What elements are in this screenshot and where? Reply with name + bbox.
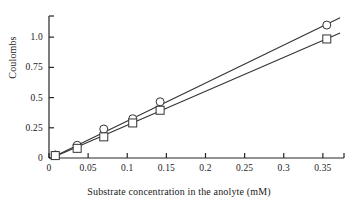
data-point-circle xyxy=(323,21,331,29)
data-point-square xyxy=(100,133,108,141)
data-series-group xyxy=(51,18,340,160)
x-tick-label: 0.2 xyxy=(199,163,211,173)
y-tick-label: 0.25 xyxy=(4,123,43,133)
data-point-square xyxy=(129,119,137,127)
data-point-square xyxy=(51,152,59,160)
x-tick-label: 0.35 xyxy=(314,163,331,173)
y-tick-label: 0 xyxy=(4,153,43,163)
data-point-square xyxy=(323,35,331,43)
fit-line xyxy=(52,18,340,158)
x-tick-label: 0.25 xyxy=(236,163,253,173)
y-axis-title: Coulombs xyxy=(7,18,18,98)
scatter-plot-canvas xyxy=(0,0,358,206)
x-tick-label: 0.3 xyxy=(277,163,289,173)
x-tick-label: 0.15 xyxy=(158,163,175,173)
data-point-square xyxy=(156,106,164,114)
data-point-circle xyxy=(100,125,108,133)
data-point-circle xyxy=(156,98,164,106)
x-tick-label: 0.1 xyxy=(121,163,133,173)
x-tick-label: 0.05 xyxy=(79,163,96,173)
x-tick-label: 0 xyxy=(47,163,52,173)
data-point-square xyxy=(73,144,81,152)
chart-figure: 00.050.10.150.20.250.30.35 00.250.50.751… xyxy=(0,0,358,206)
x-axis-title: Substrate concentration in the anolyte (… xyxy=(0,186,358,197)
fit-line xyxy=(52,33,340,158)
